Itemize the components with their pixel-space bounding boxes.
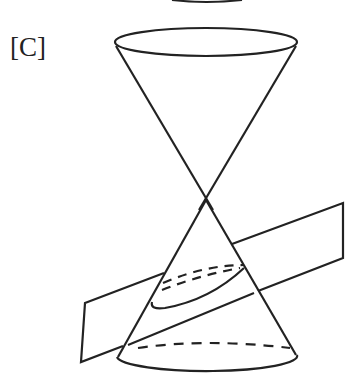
double-cone-diagram bbox=[0, 0, 362, 375]
lower-cone-rim-front bbox=[117, 355, 297, 371]
upper-cone-rim bbox=[115, 28, 297, 56]
upper-cone-right-edge bbox=[199, 46, 296, 210]
section-ellipse-back-upper bbox=[163, 265, 244, 283]
plane-right-part bbox=[232, 203, 343, 291]
lower-cone-right-edge bbox=[206, 200, 296, 355]
top-cut-arc bbox=[172, 0, 242, 2]
lower-cone-rim-back bbox=[138, 343, 290, 348]
upper-cone-left-edge bbox=[116, 46, 213, 210]
